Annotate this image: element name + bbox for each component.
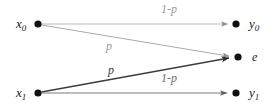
edge-x1-to-e xyxy=(42,58,230,92)
edge-group xyxy=(42,24,230,93)
node-label-y1-subscript: 1 xyxy=(255,92,260,102)
node-label-y0-subscript: 0 xyxy=(255,23,260,33)
node-label-x1: x1 xyxy=(16,86,26,102)
edge-label-x1-y1: 1-p xyxy=(161,72,177,84)
node-label-x0: x0 xyxy=(16,17,26,33)
node-label-x0-subscript: 0 xyxy=(22,23,27,33)
edge-x0-to-e xyxy=(42,25,230,56)
node-label-y1: y1 xyxy=(249,86,259,102)
node-dot-y1 xyxy=(232,89,239,96)
edge-label-x0-y0: 1-p xyxy=(161,3,177,15)
node-dot-e xyxy=(234,53,241,60)
channel-diagram: x0 x1 y0 y1 e 1-p p p 1-p xyxy=(0,0,278,110)
node-label-x1-subscript: 1 xyxy=(22,92,27,102)
channel-graph-svg xyxy=(0,0,278,110)
edge-label-x0-e: p xyxy=(106,40,112,52)
edge-label-x1-e: p xyxy=(108,64,114,76)
node-label-y0: y0 xyxy=(249,17,259,33)
node-dot-group xyxy=(34,20,241,96)
node-label-e: e xyxy=(252,51,257,63)
node-dot-x0 xyxy=(34,20,41,27)
node-dot-x1 xyxy=(34,89,41,96)
node-dot-y0 xyxy=(232,20,239,27)
